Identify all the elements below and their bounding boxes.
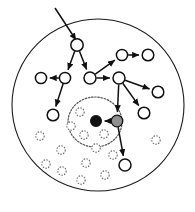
visited-node[interactable] bbox=[71, 39, 83, 51]
inactive-node bbox=[42, 160, 50, 168]
network-graph bbox=[0, 0, 195, 212]
inactive-node bbox=[76, 108, 84, 116]
inactive-node bbox=[152, 136, 160, 144]
graph-edge bbox=[56, 84, 63, 107]
graph-edge bbox=[123, 83, 139, 105]
inactive-node bbox=[82, 159, 90, 167]
visited-node[interactable] bbox=[47, 109, 59, 121]
inactive-node bbox=[58, 167, 66, 175]
resolver-node[interactable] bbox=[111, 115, 123, 127]
inactive-node bbox=[77, 176, 85, 184]
graph-edge bbox=[125, 80, 149, 89]
incoming-query-arrow bbox=[55, 8, 76, 40]
graph-edge bbox=[79, 51, 86, 69]
edge-layer bbox=[50, 51, 150, 156]
visited-node[interactable] bbox=[138, 107, 150, 119]
inactive-node bbox=[67, 122, 75, 130]
target-node[interactable] bbox=[91, 116, 102, 127]
graph-edge bbox=[95, 60, 115, 74]
network-area-boundary bbox=[12, 19, 184, 191]
visited-node[interactable] bbox=[84, 72, 96, 84]
inactive-node bbox=[92, 144, 100, 152]
visited-node[interactable] bbox=[142, 49, 154, 61]
visited-node[interactable] bbox=[152, 86, 164, 98]
visited-node[interactable] bbox=[35, 72, 46, 83]
node-layer bbox=[35, 39, 163, 171]
inactive-node bbox=[80, 131, 88, 139]
visited-node[interactable] bbox=[59, 72, 70, 83]
graph-edge bbox=[117, 84, 118, 112]
inactive-node bbox=[100, 130, 108, 138]
inactive-node bbox=[109, 151, 117, 159]
graph-edge bbox=[118, 127, 123, 156]
inactive-node bbox=[101, 171, 109, 179]
inactive-node bbox=[36, 132, 44, 140]
visited-node[interactable] bbox=[119, 159, 131, 171]
diagram-canvas bbox=[0, 0, 195, 212]
visited-node[interactable] bbox=[113, 72, 125, 84]
visited-node[interactable] bbox=[116, 49, 127, 60]
inactive-node bbox=[57, 146, 65, 154]
graph-edge bbox=[68, 51, 75, 69]
